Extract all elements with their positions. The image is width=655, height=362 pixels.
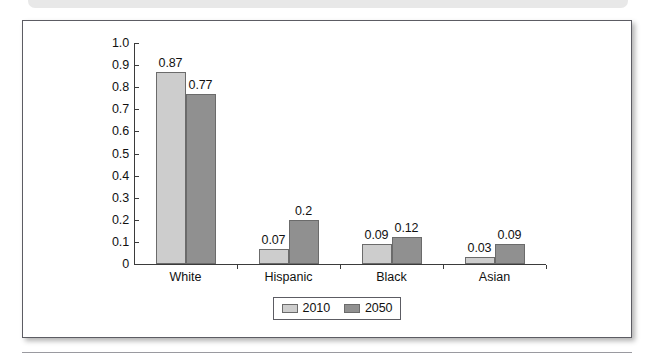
y-axis-tick-label: 0 <box>45 258 129 271</box>
bar-value-label: 0.12 <box>395 222 419 235</box>
y-axis-tick-label: 1.0 <box>45 37 129 50</box>
y-axis-tick <box>135 242 139 243</box>
y-axis-tick-label: 0.5 <box>45 148 129 161</box>
y-axis-tick <box>135 87 139 88</box>
y-axis-tick <box>135 65 139 66</box>
y-axis-tick-label: 0.6 <box>45 125 129 138</box>
bar-hispanic-2050 <box>289 220 319 264</box>
page-header-band <box>28 0 628 8</box>
bar-value-label: 0.2 <box>295 205 312 218</box>
legend-label-2050: 2050 <box>365 302 392 315</box>
figure-frame: 1.00.90.80.70.60.50.40.30.20.10 0.870.77… <box>22 20 632 338</box>
x-axis-tick <box>443 265 444 269</box>
y-axis-tick <box>135 43 139 44</box>
bar-value-label: 0.03 <box>468 242 492 255</box>
bar-black-2010 <box>362 244 392 264</box>
y-axis-tick-label: 0.4 <box>45 170 129 183</box>
y-axis-tick <box>135 264 139 265</box>
y-axis-tick <box>135 109 139 110</box>
bar-hispanic-2010 <box>259 249 289 264</box>
legend-label-2010: 2010 <box>303 302 330 315</box>
bar-value-label: 0.09 <box>365 229 389 242</box>
category-label-hispanic: Hispanic <box>265 271 313 284</box>
grouped-bar-chart: 1.00.90.80.70.60.50.40.30.20.10 0.870.77… <box>23 21 633 339</box>
category-label-black: Black <box>376 271 407 284</box>
y-axis-tick <box>135 220 139 221</box>
bar-white-2050 <box>186 94 216 264</box>
y-axis-tick <box>135 198 139 199</box>
bar-value-label: 0.87 <box>159 57 183 70</box>
category-label-asian: Asian <box>479 271 510 284</box>
legend-swatch-2050-icon <box>344 304 360 313</box>
x-axis-tick <box>237 265 238 269</box>
bar-value-label: 0.09 <box>498 229 522 242</box>
bar-value-label: 0.77 <box>189 79 213 92</box>
bar-value-label: 0.07 <box>262 234 286 247</box>
legend-swatch-2010-icon <box>282 304 298 313</box>
legend-entry-2050: 2050 <box>344 302 392 315</box>
y-axis-tick-label: 0.9 <box>45 59 129 72</box>
category-label-white: White <box>170 271 202 284</box>
y-axis-tick-label: 0.3 <box>45 192 129 205</box>
x-axis-tick <box>340 265 341 269</box>
y-axis-tick-label: 0.1 <box>45 236 129 249</box>
legend-entry-2010: 2010 <box>282 302 330 315</box>
chart-legend: 2010 2050 <box>273 297 401 320</box>
y-axis-tick-label: 0.7 <box>45 103 129 116</box>
bar-black-2050 <box>392 237 422 264</box>
x-axis-tick <box>546 265 547 269</box>
y-axis-tick <box>135 131 139 132</box>
y-axis-tick-label: 0.8 <box>45 81 129 94</box>
y-axis-tick-label: 0.2 <box>45 214 129 227</box>
y-axis-tick <box>135 154 139 155</box>
bar-asian-2050 <box>495 244 525 264</box>
bar-asian-2010 <box>465 257 495 264</box>
y-axis-tick <box>135 176 139 177</box>
bar-white-2010 <box>156 72 186 264</box>
page-bottom-rule <box>22 352 632 353</box>
